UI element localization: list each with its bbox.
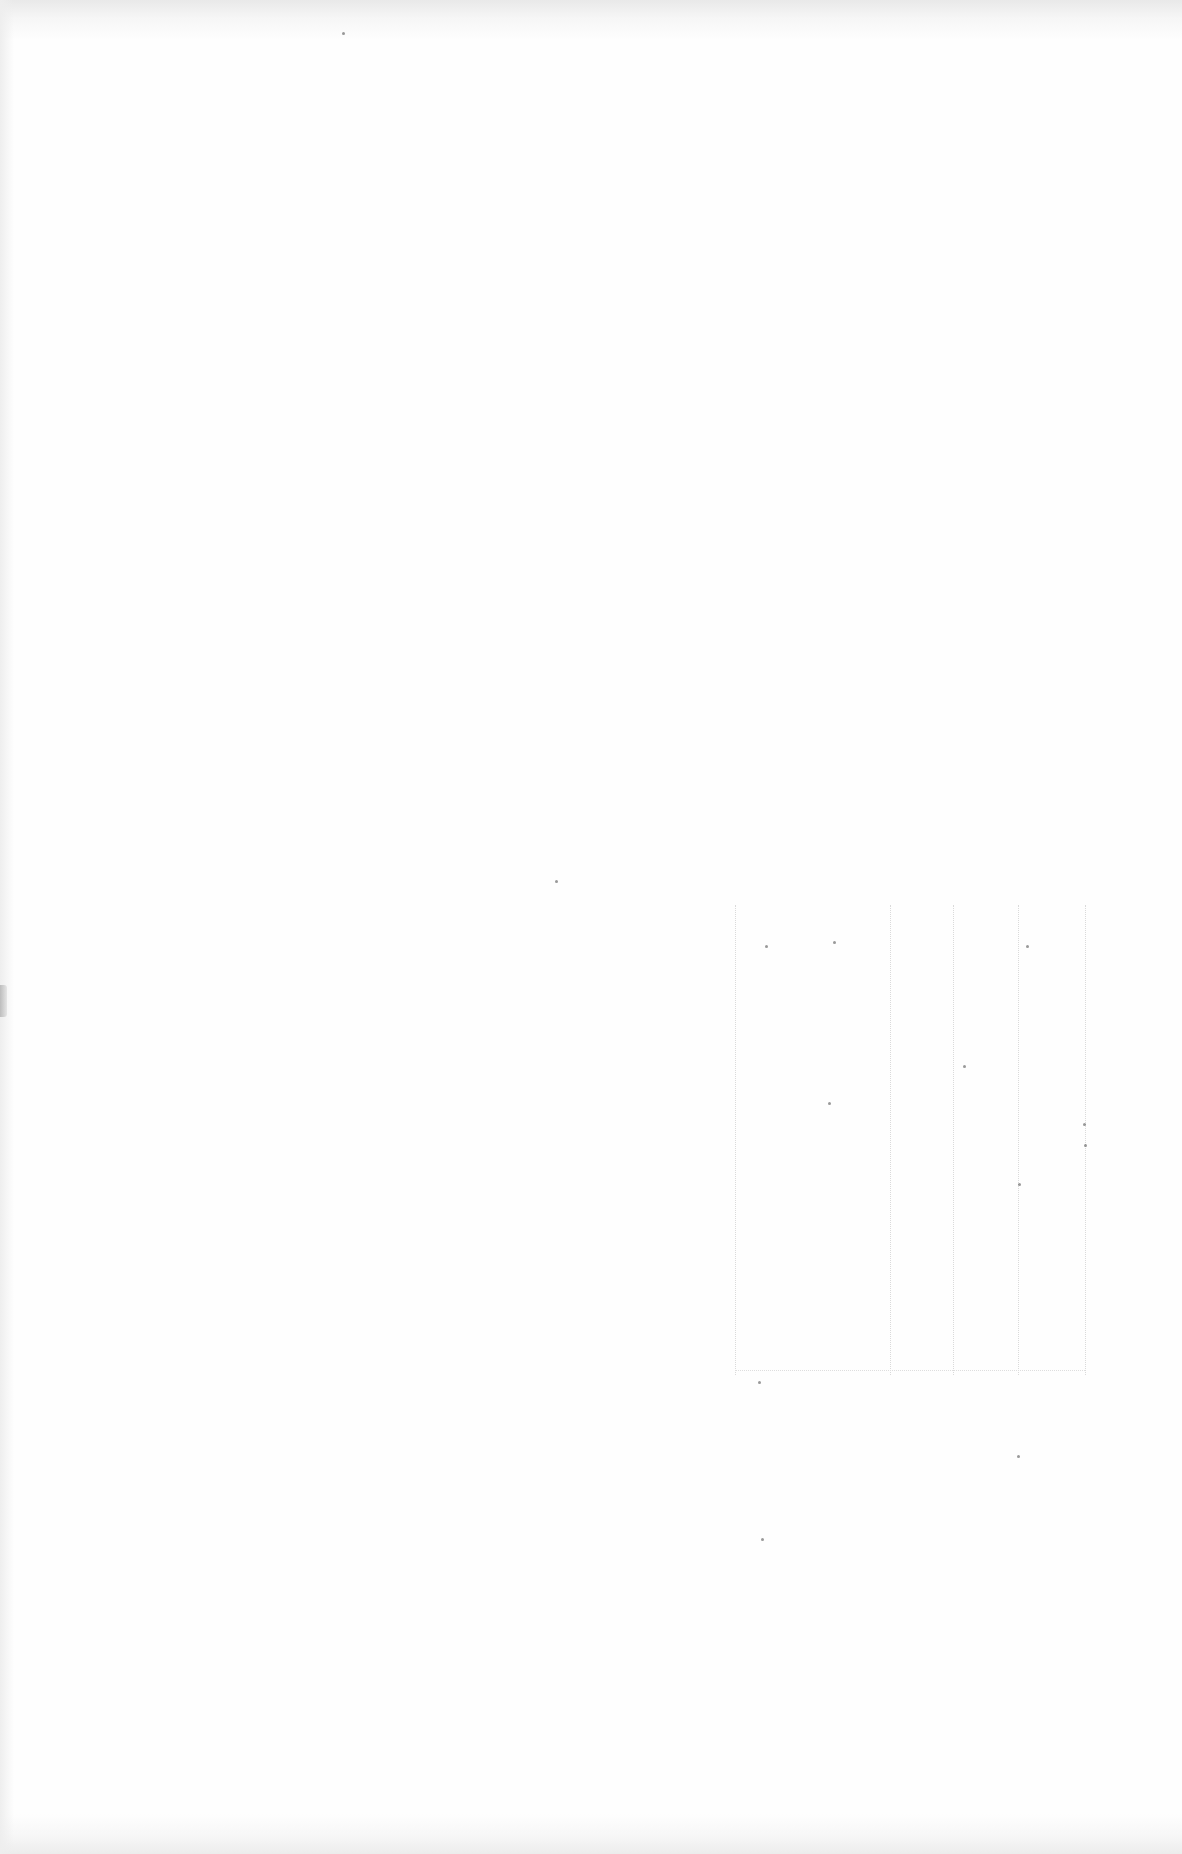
scan-speck — [1018, 1183, 1021, 1186]
scanner-edge-top — [0, 0, 1182, 40]
binding-shadow — [0, 0, 14, 1854]
scanner-edge-bottom — [0, 1814, 1182, 1854]
blank-scanned-page — [0, 0, 1182, 1854]
scan-speck — [1026, 945, 1029, 948]
ghost-row-line — [735, 1370, 1085, 1371]
ghost-column-line — [1085, 905, 1086, 1375]
scan-speck — [761, 1538, 764, 1541]
scan-speck — [1017, 1455, 1020, 1458]
scan-speck — [555, 880, 558, 883]
scan-speck — [765, 945, 768, 948]
scan-speck — [963, 1065, 966, 1068]
ghost-column-line — [953, 905, 954, 1375]
scan-speck — [1084, 1144, 1087, 1147]
binding-mark — [0, 985, 7, 1017]
ghost-column-line — [1018, 905, 1019, 1375]
scan-speck — [1083, 1123, 1086, 1126]
ghost-column-line — [735, 905, 736, 1375]
scan-speck — [758, 1381, 761, 1384]
show-through-table-ghost — [735, 905, 1090, 1390]
scan-speck — [828, 1102, 831, 1105]
scan-speck — [833, 941, 836, 944]
scan-speck — [342, 32, 345, 35]
ghost-column-line — [890, 905, 891, 1375]
